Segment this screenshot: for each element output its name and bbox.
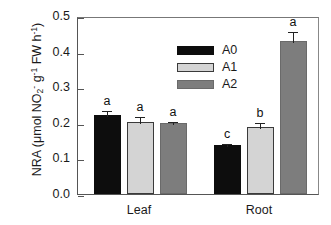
error-cap-root-a1 (255, 123, 265, 124)
y-axis-tick-label: 0.1 (30, 151, 70, 165)
significance-letter-root-a2: a (283, 15, 303, 29)
significance-letter-root-a1: b (250, 106, 270, 120)
bar-root-a1 (247, 127, 274, 194)
bar-leaf-a2 (160, 123, 187, 194)
y-axis-title: NRA (μmol NO2- g-1 FW h-1) (29, 0, 44, 200)
legend-label-a1: A1 (222, 61, 237, 74)
y-axis-tick (78, 160, 84, 161)
legend-label-a0: A0 (222, 44, 237, 57)
legend-label-a2: A2 (222, 78, 237, 91)
chart-figure: NRA (μmol NO2- g-1 FW h-1) 0.00.10.20.30… (0, 0, 331, 225)
x-axis-label-root: Root (219, 203, 299, 217)
y-axis-title-sup-g: -1 (29, 68, 39, 76)
y-axis-title-suffix: ) (30, 23, 44, 27)
error-cap-leaf-a1 (135, 117, 145, 118)
bar-root-a0 (214, 145, 241, 194)
significance-letter-root-a0: c (217, 127, 237, 141)
y-axis-tick (78, 196, 84, 197)
y-axis-tick-label: 0.3 (30, 80, 70, 94)
y-axis-tick-label: 0.0 (30, 187, 70, 201)
significance-letter-leaf-a1: a (130, 100, 150, 114)
legend: A0A1A2 (177, 43, 237, 94)
legend-item-a0[interactable]: A0 (177, 43, 237, 58)
error-cap-leaf-a2 (168, 122, 178, 123)
error-bar-root-a2 (293, 32, 294, 43)
y-axis-tick (78, 125, 84, 126)
bar-leaf-a0 (94, 115, 121, 194)
y-axis-tick-label: 0.5 (30, 9, 70, 23)
x-axis-label-leaf: Leaf (99, 203, 179, 217)
legend-swatch-icon-a0 (177, 46, 214, 55)
y-axis-tick (78, 89, 84, 90)
significance-letter-leaf-a0: a (97, 94, 117, 108)
error-cap-root-a2 (288, 32, 298, 33)
error-cap-root-a0 (222, 144, 232, 145)
y-axis-tick (78, 18, 84, 19)
legend-item-a1[interactable]: A1 (177, 60, 237, 75)
bar-leaf-a1 (127, 122, 154, 194)
y-axis-title-sup-h: -1 (29, 27, 39, 35)
legend-swatch-icon-a2 (177, 80, 214, 89)
legend-item-a2[interactable]: A2 (177, 77, 237, 92)
y-axis-tick-label: 0.4 (30, 45, 70, 59)
bar-root-a2 (280, 41, 307, 194)
y-axis-tick-label: 0.2 (30, 116, 70, 130)
error-cap-leaf-a0 (102, 111, 112, 112)
significance-letter-leaf-a2: a (163, 105, 183, 119)
legend-swatch-icon-a1 (177, 63, 214, 72)
y-axis-tick (78, 54, 84, 55)
plot-area: aaacba A0A1A2 (77, 17, 319, 195)
